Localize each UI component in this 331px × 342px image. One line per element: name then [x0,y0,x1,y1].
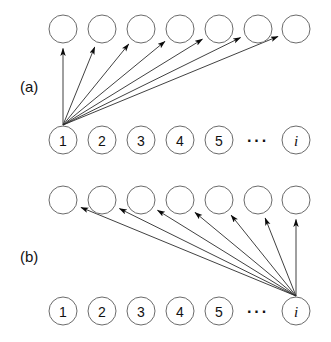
panel-a-bottom-label-3: 4 [176,133,184,149]
panel-a-label: (a) [20,78,38,95]
panel-b-edge-3 [195,212,296,296]
panel-a-edges [63,36,278,125]
panel-a-edge-1 [63,47,95,125]
panel-a-top-row [49,15,310,43]
panel-a-top-circle-1 [88,15,116,43]
panel-b-edge-0 [81,207,296,296]
panel-a-top-circle-5 [244,15,272,43]
panel-a-top-circle-4 [205,15,233,43]
panel-a-bottom-label-6: i [294,133,298,149]
panel-b-edges [81,207,296,296]
panel-b-top-circle-1 [88,186,116,214]
panel-a-bottom-label-5: ··· [247,132,269,149]
panel-a-edge-4 [63,39,202,125]
panel-a-bottom-label-1: 2 [98,133,106,149]
panel-a-edge-5 [63,38,241,125]
panel-b-bottom-label-6: i [294,304,298,320]
panel-b-bottom-label-4: 5 [215,304,223,320]
figure-canvas: (a) (b) 12345···i 12345···i [0,0,331,342]
panel-b-bottom-label-3: 4 [176,304,184,320]
panel-b-edge-5 [265,218,296,296]
panel-b-edge-4 [231,215,296,296]
panel-b-edge-2 [158,210,296,296]
panel-b-bottom-label-2: 3 [137,304,145,320]
panel-b-top-circle-5 [244,186,272,214]
panel-a-edge-6 [63,36,278,125]
panel-a-edge-2 [63,44,129,125]
panel-b-bottom-label-5: ··· [247,303,269,320]
panel-a-top-circle-0 [49,15,77,43]
diagram-svg: 12345···i 12345···i [0,0,331,342]
panel-a-bottom-label-2: 3 [137,133,145,149]
panel-b-top-circle-6 [282,186,310,214]
panel-a-top-circle-3 [166,15,194,43]
panel-a-bottom-label-4: 5 [215,133,223,149]
panel-a-top-circle-2 [127,15,155,43]
panel-b-top-row [49,186,310,214]
panel-b-bottom-label-0: 1 [59,304,67,320]
panel-b-top-circle-0 [49,186,77,214]
panel-b-top-circle-4 [205,186,233,214]
panel-a-bottom-row: 12345···i [49,126,310,154]
panel-b-top-circle-3 [166,186,194,214]
panel-a-edge-3 [63,41,165,125]
panel-b-bottom-row: 12345···i [49,297,310,325]
panel-b-edge-1 [119,209,296,296]
panel-a-top-circle-6 [282,15,310,43]
panel-b-top-circle-2 [127,186,155,214]
panel-b-label: (b) [20,248,38,265]
panel-a-bottom-label-0: 1 [59,133,67,149]
panel-b-bottom-label-1: 2 [98,304,106,320]
